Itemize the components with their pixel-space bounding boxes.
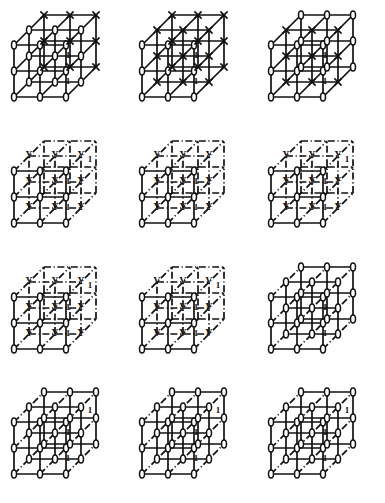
node-marker-oval — [53, 429, 58, 437]
node-marker-oval — [294, 193, 299, 201]
node-marker-oval — [268, 345, 273, 353]
node-marker-oval — [309, 330, 314, 338]
node-marker-oval — [350, 263, 355, 271]
node-marker-letter: Y — [26, 150, 33, 160]
node-marker-letter: Y — [308, 176, 315, 186]
node-marker-oval — [12, 67, 17, 75]
node-marker-letter: V — [154, 302, 161, 312]
node-marker-oval — [294, 167, 299, 175]
node-marker-oval — [324, 388, 329, 396]
node-marker-oval — [12, 219, 17, 227]
node-marker-letter: Y — [78, 150, 85, 160]
node-marker-oval — [320, 219, 325, 227]
node-marker-oval — [94, 440, 99, 448]
edge-length-label: 1 — [194, 328, 199, 338]
node-marker-oval — [268, 219, 273, 227]
node-marker-oval — [181, 403, 186, 411]
node-marker-oval — [335, 403, 340, 411]
node-marker-letter: Y — [78, 328, 85, 338]
node-marker-oval — [192, 193, 197, 201]
node-marker-oval — [166, 193, 171, 201]
node-marker-letter: Y — [334, 176, 341, 186]
node-marker-oval — [324, 440, 329, 448]
lattice-diagram: 11 — [257, 0, 385, 126]
node-marker-oval — [192, 319, 197, 327]
node-marker-oval — [222, 388, 227, 396]
lattice-diagram: YYYYYYYYY111 — [0, 126, 128, 252]
node-marker-oval — [309, 403, 314, 411]
panel-r1c2: 11 — [128, 0, 256, 126]
edge-length-label: 1 — [88, 154, 93, 164]
node-marker-letter: Y — [52, 202, 59, 212]
node-marker-oval — [140, 193, 145, 201]
node-marker-oval — [64, 293, 69, 301]
node-marker-oval — [222, 414, 227, 422]
panel-r4c3: 111 — [257, 377, 385, 503]
node-marker-letter: V — [206, 302, 213, 312]
node-marker-oval — [64, 345, 69, 353]
node-marker-letter: Y — [180, 202, 187, 212]
node-marker-oval — [166, 219, 171, 227]
edge-length-label: 1 — [66, 302, 71, 312]
node-marker-oval — [166, 293, 171, 301]
edge-length-label: 1 — [194, 427, 199, 437]
node-marker-letter: Y — [154, 202, 161, 212]
node-marker-oval — [38, 319, 43, 327]
node-marker-letter: Y — [78, 276, 85, 286]
node-marker-oval — [27, 403, 32, 411]
node-marker-oval — [207, 429, 212, 437]
node-marker-oval — [79, 429, 84, 437]
node-marker-oval — [12, 444, 17, 452]
node-marker-oval — [166, 319, 171, 327]
node-marker-oval — [170, 388, 175, 396]
node-marker-oval — [79, 455, 84, 463]
node-marker-oval — [283, 429, 288, 437]
edge-length-label: 1 — [194, 453, 199, 463]
node-marker-oval — [350, 11, 355, 19]
node-marker-oval — [140, 293, 145, 301]
node-marker-letter: Y — [78, 176, 85, 186]
node-marker-oval — [350, 289, 355, 297]
node-marker-oval — [166, 470, 171, 478]
panel-r2c1: YYYYYYYYY111 — [0, 126, 128, 252]
panel-r3c3: 11 — [257, 252, 385, 378]
node-marker-oval — [294, 470, 299, 478]
panel-r2c3: YYYYYYYYY111 — [257, 126, 385, 252]
node-marker-oval — [335, 455, 340, 463]
node-marker-oval — [350, 388, 355, 396]
node-marker-letter: V — [154, 276, 161, 286]
node-marker-oval — [268, 293, 273, 301]
node-marker-oval — [42, 388, 47, 396]
node-marker-oval — [320, 470, 325, 478]
node-marker-oval — [12, 167, 17, 175]
node-marker-oval — [27, 455, 32, 463]
node-marker-oval — [350, 414, 355, 422]
node-marker-letter: Y — [282, 150, 289, 160]
node-marker-oval — [320, 167, 325, 175]
edge-length-label: 1 — [322, 202, 327, 212]
node-marker-letter: Y — [26, 328, 33, 338]
edge-length-label: 1 — [194, 50, 199, 60]
node-marker-letter: Y — [282, 202, 289, 212]
lattice-diagram: YYYYYYYYY11 — [128, 126, 256, 252]
node-marker-oval — [268, 41, 273, 49]
node-marker-oval — [42, 440, 47, 448]
edge-length-label: 1 — [194, 302, 199, 312]
node-marker-oval — [298, 315, 303, 323]
node-marker-oval — [12, 193, 17, 201]
panel-r2c2: YYYYYYYYY11 — [128, 126, 256, 252]
node-marker-oval — [140, 319, 145, 327]
node-marker-oval — [309, 429, 314, 437]
node-marker-oval — [335, 429, 340, 437]
node-marker-oval — [192, 219, 197, 227]
node-marker-letter: Y — [52, 276, 59, 286]
edge-length-label: 1 — [194, 176, 199, 186]
node-marker-oval — [196, 388, 201, 396]
node-marker-oval — [64, 167, 69, 175]
node-marker-oval — [320, 193, 325, 201]
edge-length-label: 1 — [66, 453, 71, 463]
node-marker-oval — [94, 388, 99, 396]
node-marker-oval — [12, 93, 17, 101]
node-marker-oval — [140, 41, 145, 49]
edge-length-label: 1 — [322, 176, 327, 186]
